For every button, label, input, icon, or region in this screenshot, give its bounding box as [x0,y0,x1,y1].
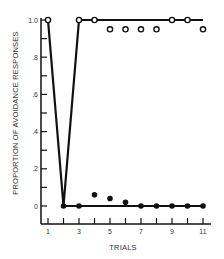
data-points [45,17,205,208]
x-tick-label: 7 [139,228,143,235]
y-tick-label: .2 [32,165,38,172]
x-ticks: 1357911 [46,218,207,235]
line-upper [48,20,203,206]
open-point [76,17,81,22]
filled-point [169,203,175,209]
filled-point [200,203,206,209]
x-tick-label: 9 [170,228,174,235]
open-point [185,17,190,22]
y-ticks: 0.2.4.6.81.0 [28,17,47,210]
x-tick-label: 5 [108,228,112,235]
open-point [138,27,143,32]
open-point [107,27,112,32]
filled-point [185,203,191,209]
open-point [92,17,97,22]
filled-point [107,196,113,202]
x-tick-label: 11 [199,228,206,235]
y-tick-label: 0 [34,203,38,210]
filled-point [123,199,129,205]
x-tick-label: 3 [77,228,81,235]
y-tick-label: 1.0 [28,17,38,24]
data-lines [48,20,203,206]
open-point [123,27,128,32]
filled-point [138,203,144,209]
x-tick-label: 1 [46,228,50,235]
chart: 0.2.4.6.81.0 1357911 TRIALS PROPORTION O… [0,0,224,259]
x-axis-title: TRIALS [109,243,136,252]
filled-point [76,203,82,209]
y-axis-title: PROPORTION OF AVOIDANCE RESPONSES [11,31,20,194]
open-point [169,17,174,22]
y-tick-label: .8 [32,54,38,61]
filled-point [154,203,160,209]
open-point [45,17,50,22]
open-point [154,27,159,32]
y-tick-label: .4 [32,128,38,135]
y-tick-label: .6 [32,91,38,98]
open-point [200,27,205,32]
filled-point [92,192,98,198]
filled-point [61,203,67,209]
